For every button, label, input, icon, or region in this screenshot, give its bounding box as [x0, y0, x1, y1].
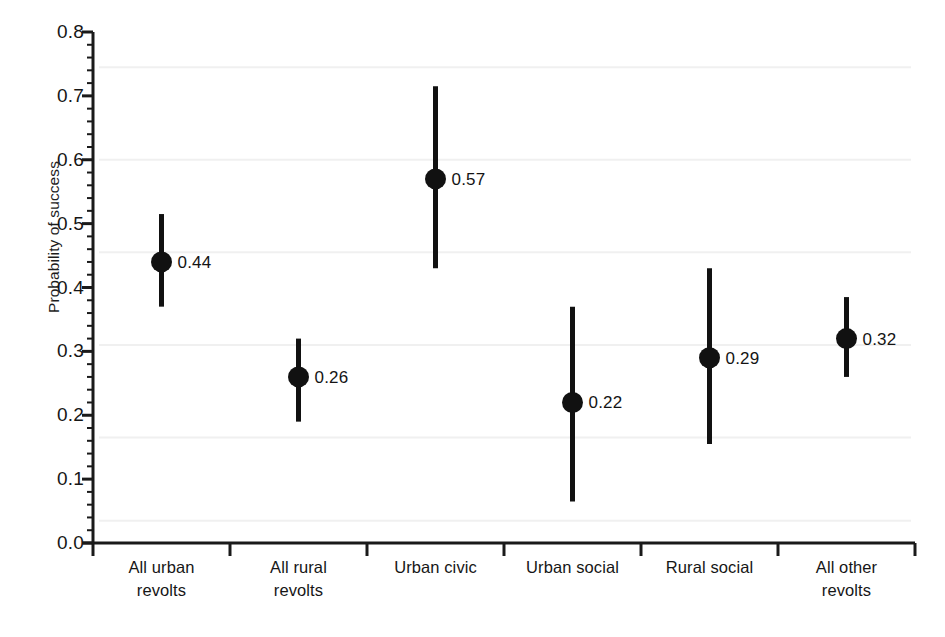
data-value-label: 0.29: [726, 349, 760, 369]
data-value-label: 0.44: [178, 253, 212, 273]
data-value-label: 0.57: [452, 170, 486, 190]
data-value-label: 0.22: [589, 393, 623, 413]
data-value-labels: 0.440.260.570.220.290.32: [0, 0, 945, 637]
data-value-label: 0.26: [315, 368, 349, 388]
chart-container: Probability of success 0.00.10.20.30.40.…: [0, 0, 945, 637]
data-value-label: 0.32: [863, 330, 897, 350]
